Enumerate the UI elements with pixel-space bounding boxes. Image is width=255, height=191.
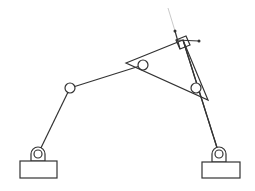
right-ground-support [202, 147, 240, 178]
middle-joint-icon [65, 83, 75, 93]
right-link-overlay [183, 40, 219, 154]
coupler-link [70, 65, 143, 88]
left-link [38, 88, 70, 154]
marker-dot-top [174, 30, 177, 33]
left-ground-support [20, 147, 57, 178]
guide-line [168, 8, 175, 31]
linkage-diagram [0, 0, 255, 191]
triangle-left-pin-icon [138, 60, 148, 70]
triangle-right-pin-icon [191, 83, 201, 93]
marker-dot-right [198, 40, 201, 43]
